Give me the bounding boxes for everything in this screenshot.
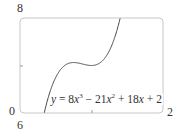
eq-term2: − 21 xyxy=(83,93,107,105)
equation-label: y = 8x3 − 21x2 + 18x + 2 xyxy=(50,93,163,105)
y-max-label: 8 xyxy=(17,2,23,14)
eq-term3: + 18 xyxy=(115,93,139,105)
x-min-label: 0 xyxy=(9,105,15,117)
x-max-label: 2 xyxy=(167,106,173,118)
plot-area xyxy=(0,0,185,134)
eq-term4: + 2 xyxy=(144,93,162,105)
eq-term1: = 8 xyxy=(56,93,74,105)
y-min-label: 6 xyxy=(17,119,23,131)
